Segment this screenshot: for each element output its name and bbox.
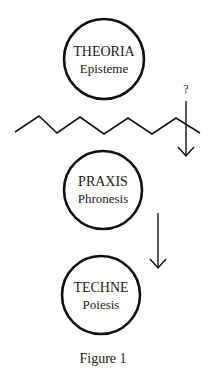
techne-title: TECHNE	[73, 280, 128, 295]
theoria-subtitle: Episteme	[80, 61, 129, 76]
praxis-title: PRAXIS	[78, 174, 128, 189]
praxis-circle	[64, 151, 142, 229]
techne-subtitle: Poiesis	[83, 297, 120, 312]
zigzag-boundary-line	[15, 116, 200, 134]
node-theoria: THEORIA Episteme	[64, 19, 144, 99]
node-techne: TECHNE Poiesis	[62, 256, 140, 334]
arrow-down-icon	[150, 213, 166, 268]
question-mark-label: ?	[183, 82, 188, 96]
theoria-title: THEORIA	[73, 44, 135, 59]
theoria-circle	[64, 19, 144, 99]
figure-caption: Figure 1	[79, 351, 126, 366]
figure-diagram: THEORIA Episteme ? PRAXIS Phronesis TECH…	[0, 0, 214, 377]
techne-circle	[62, 256, 140, 334]
praxis-subtitle: Phronesis	[78, 191, 129, 206]
node-praxis: PRAXIS Phronesis	[64, 151, 142, 229]
